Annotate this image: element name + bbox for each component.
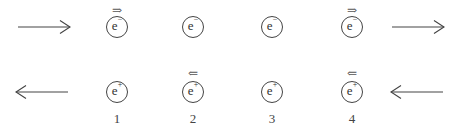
column-label-2: 2 xyxy=(182,112,204,125)
column-label-4: 4 xyxy=(341,112,363,125)
electron-2: e− xyxy=(182,16,204,38)
particle-symbol: e xyxy=(267,84,273,99)
particle-charge: + xyxy=(353,80,358,89)
column-label-1: 1 xyxy=(106,112,128,125)
particle-symbol: e xyxy=(188,84,194,99)
positron-4: e+ xyxy=(341,81,363,103)
particle-symbol: e xyxy=(267,19,273,34)
top-right-right-arrow-icon xyxy=(392,20,446,34)
particle-charge: − xyxy=(353,15,358,24)
spin-right-icon: ⇒ xyxy=(106,4,128,16)
bottom-right-left-arrow-icon xyxy=(390,85,444,99)
beam-helicity-diagram: ⇒ ⇒ e− e− e− e− ⇐ ⇐ e+ e+ e+ e+ 1 2 3 4 xyxy=(0,0,461,132)
particle-charge: + xyxy=(273,80,278,89)
electron-1: e− xyxy=(106,16,128,38)
particle-symbol: e xyxy=(347,19,353,34)
positron-2: e+ xyxy=(182,81,204,103)
particle-charge: − xyxy=(194,15,199,24)
spin-left-icon: ⇐ xyxy=(182,67,204,79)
spin-right-icon: ⇒ xyxy=(341,4,363,16)
top-left-right-arrow-icon xyxy=(18,20,72,34)
particle-symbol: e xyxy=(112,84,118,99)
particle-symbol: e xyxy=(347,84,353,99)
particle-symbol: e xyxy=(188,19,194,34)
positron-3: e+ xyxy=(261,81,283,103)
particle-charge: + xyxy=(118,80,123,89)
particle-charge: + xyxy=(194,80,199,89)
column-label-3: 3 xyxy=(261,112,283,125)
particle-charge: − xyxy=(273,15,278,24)
electron-3: e− xyxy=(261,16,283,38)
electron-4: e− xyxy=(341,16,363,38)
bottom-left-left-arrow-icon xyxy=(15,85,69,99)
positron-1: e+ xyxy=(106,81,128,103)
particle-symbol: e xyxy=(112,19,118,34)
spin-left-icon: ⇐ xyxy=(341,67,363,79)
particle-charge: − xyxy=(118,15,123,24)
